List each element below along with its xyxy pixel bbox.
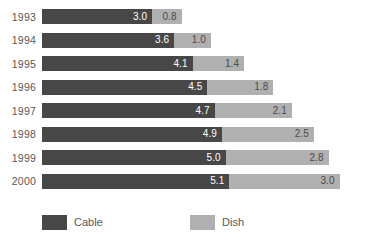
bar-segment-cable: 3.6: [42, 33, 174, 48]
bar-value-label: 1.4: [225, 59, 244, 69]
bar-segment-cable: 5.1: [42, 174, 229, 189]
legend-item-dish: Dish: [190, 213, 244, 231]
bar-row: 19974.72.1: [0, 103, 368, 118]
bar-segment-cable: 4.5: [42, 80, 207, 95]
bar-value-label: 0.8: [162, 12, 181, 22]
bar-row: 19995.02.8: [0, 150, 368, 165]
category-label-year: 1998: [0, 129, 36, 140]
bar-segment-cable: 4.1: [42, 56, 193, 71]
bar-row: 19954.11.4: [0, 56, 368, 71]
bar-value-label: 2.5: [295, 129, 314, 139]
bar-row: 19933.00.8: [0, 9, 368, 24]
bar-value-label: 2.1: [273, 106, 292, 116]
stacked-bar: 5.13.0: [42, 174, 340, 189]
bar-value-label: 1.8: [254, 82, 273, 92]
legend-label-dish: Dish: [222, 217, 244, 228]
chart-legend: Cable Dish: [0, 213, 368, 237]
bar-value-label: 4.9: [203, 129, 222, 139]
category-label-year: 1995: [0, 58, 36, 69]
category-label-year: 1993: [0, 11, 36, 22]
legend-item-cable: Cable: [42, 213, 103, 231]
stacked-bar: 4.72.1: [42, 103, 292, 118]
stacked-bar: 3.00.8: [42, 9, 182, 24]
bar-value-label: 4.7: [195, 106, 214, 116]
bar-row: 19964.51.8: [0, 80, 368, 95]
bar-row: 19984.92.5: [0, 127, 368, 142]
plot-area: 19933.00.819943.61.019954.11.419964.51.8…: [0, 0, 368, 205]
legend-swatch-dish-icon: [190, 215, 215, 230]
bar-segment-dish: 2.8: [226, 150, 329, 165]
bar-value-label: 3.6: [155, 35, 174, 45]
bar-segment-cable: 4.9: [42, 127, 222, 142]
bar-segment-cable: 4.7: [42, 103, 215, 118]
bar-value-label: 2.8: [309, 153, 328, 163]
bar-segment-dish: 1.8: [207, 80, 273, 95]
bar-segment-cable: 3.0: [42, 9, 152, 24]
legend-label-cable: Cable: [74, 217, 103, 228]
bar-segment-dish: 3.0: [229, 174, 339, 189]
bar-segment-dish: 1.0: [174, 33, 211, 48]
stacked-bar: 3.61.0: [42, 33, 211, 48]
category-label-year: 2000: [0, 176, 36, 187]
category-label-year: 1997: [0, 105, 36, 116]
bar-value-label: 5.1: [210, 176, 229, 186]
category-label-year: 1994: [0, 35, 36, 46]
stacked-bar-chart: 19933.00.819943.61.019954.11.419964.51.8…: [0, 0, 368, 245]
stacked-bar: 4.92.5: [42, 127, 314, 142]
bar-value-label: 3.0: [320, 176, 339, 186]
bar-value-label: 1.0: [192, 35, 211, 45]
bar-segment-dish: 2.1: [215, 103, 292, 118]
category-label-year: 1996: [0, 82, 36, 93]
legend-swatch-cable-icon: [42, 215, 67, 230]
bar-value-label: 5.0: [207, 153, 226, 163]
bar-row: 20005.13.0: [0, 174, 368, 189]
stacked-bar: 5.02.8: [42, 150, 329, 165]
bar-value-label: 3.0: [133, 12, 152, 22]
bar-value-label: 4.1: [173, 59, 192, 69]
bar-segment-dish: 2.5: [222, 127, 314, 142]
bar-segment-dish: 1.4: [193, 56, 244, 71]
bar-segment-cable: 5.0: [42, 150, 226, 165]
bar-value-label: 4.5: [188, 82, 207, 92]
stacked-bar: 4.51.8: [42, 80, 273, 95]
category-label-year: 1999: [0, 152, 36, 163]
stacked-bar: 4.11.4: [42, 56, 244, 71]
bar-row: 19943.61.0: [0, 33, 368, 48]
bar-segment-dish: 0.8: [152, 9, 181, 24]
